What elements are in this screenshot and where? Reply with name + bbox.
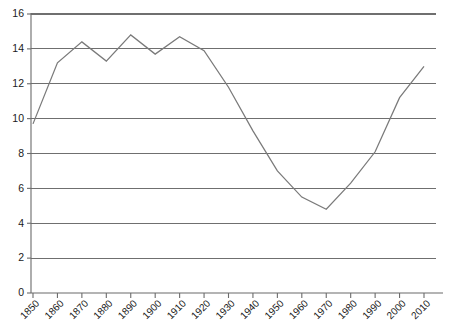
- x-tick-label-1860: 1860: [42, 297, 66, 321]
- x-tick-label-1850: 1850: [18, 297, 42, 321]
- x-tick-label-2000: 2000: [384, 297, 408, 321]
- x-tick-label-1880: 1880: [91, 297, 115, 321]
- x-tick-label-1900: 1900: [140, 297, 164, 321]
- x-tick-label-1990: 1990: [360, 297, 384, 321]
- x-tick-label-2010: 2010: [409, 297, 433, 321]
- x-tick-label-1970: 1970: [311, 297, 335, 321]
- x-tick-label-1870: 1870: [67, 297, 91, 321]
- x-tick-label-1910: 1910: [165, 297, 189, 321]
- x-tick-label-1920: 1920: [189, 297, 213, 321]
- y-tick-label-2: 2: [18, 251, 24, 263]
- x-tick-label-1960: 1960: [287, 297, 311, 321]
- x-tick-label-1890: 1890: [116, 297, 140, 321]
- y-tick-label-14: 14: [12, 42, 24, 54]
- data-line-series-1: [33, 35, 424, 209]
- y-axis-ticks: 0246810121416: [12, 7, 31, 298]
- x-axis-ticks: 1850186018701880189019001910192019301940…: [18, 293, 433, 321]
- x-tick-label-1950: 1950: [262, 297, 286, 321]
- x-tick-label-1980: 1980: [336, 297, 360, 321]
- y-tick-label-16: 16: [12, 7, 24, 19]
- line-chart: 0246810121416185018601870188018901900191…: [0, 0, 450, 329]
- y-tick-label-0: 0: [18, 286, 24, 298]
- x-tick-label-1930: 1930: [213, 297, 237, 321]
- y-tick-label-8: 8: [18, 147, 24, 159]
- gridlines: [31, 14, 436, 258]
- y-tick-label-10: 10: [12, 112, 24, 124]
- y-tick-label-6: 6: [18, 182, 24, 194]
- chart-canvas: 0246810121416185018601870188018901900191…: [0, 0, 450, 329]
- data-series-group: [33, 35, 424, 209]
- y-tick-label-4: 4: [18, 217, 24, 229]
- x-tick-label-1940: 1940: [238, 297, 262, 321]
- y-tick-label-12: 12: [12, 77, 24, 89]
